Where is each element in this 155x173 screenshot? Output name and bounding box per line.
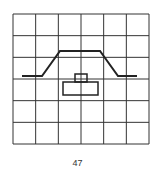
grid-diagram — [0, 0, 155, 150]
page-number: 47 — [0, 158, 155, 168]
trapezoid-profile-line — [22, 51, 137, 76]
grid-lines — [13, 14, 149, 144]
